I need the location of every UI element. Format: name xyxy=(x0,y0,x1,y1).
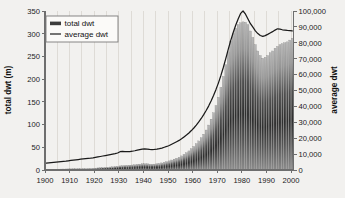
y-axis-left-tick: 200 xyxy=(27,75,40,84)
y-axis-right-title: average dwt xyxy=(330,66,339,114)
y-axis-left-title: total dwt (m) xyxy=(4,65,13,114)
chart-legend: total dwt average dwt xyxy=(46,16,118,42)
x-axis-tick: 1920 xyxy=(86,176,103,185)
x-axis-tick: 1950 xyxy=(160,176,177,185)
y-axis-right-tick: 70,000 xyxy=(299,55,322,64)
y-axis-left-tick: 300 xyxy=(27,30,40,39)
x-axis-tick: 1970 xyxy=(209,176,226,185)
y-axis-right-tick: 80,000 xyxy=(299,39,322,48)
legend-label-total-dwt: total dwt xyxy=(65,19,96,28)
y-axis-left-tick: 350 xyxy=(27,7,40,16)
y-axis-left-tick: 250 xyxy=(27,52,40,61)
y-axis-right-tick: 90,000 xyxy=(299,23,322,32)
x-axis-tick: 2000 xyxy=(283,176,300,185)
x-axis-tick: 1980 xyxy=(233,176,250,185)
y-axis-left-tick: 0 xyxy=(36,166,40,175)
x-axis-tick: 1910 xyxy=(61,176,78,185)
y-axis-right-tick: 60,000 xyxy=(299,70,322,79)
y-axis-left-tick: 50 xyxy=(32,143,40,152)
legend-swatch-total-dwt xyxy=(50,22,61,26)
y-axis-right-tick: 10,000 xyxy=(299,150,322,159)
y-axis-right-tick: 50,000 xyxy=(299,86,322,95)
y-axis-left-tick: 150 xyxy=(27,98,40,107)
y-axis-right-tick: 30,000 xyxy=(299,118,322,127)
total-and-average-dwt-chart: 1900191019201930194019501960197019801990… xyxy=(0,0,345,198)
y-axis-right-tick: 100,000 xyxy=(299,7,326,16)
chart-figure: 1900191019201930194019501960197019801990… xyxy=(0,0,345,198)
legend-label-average-dwt: average dwt xyxy=(65,30,109,39)
y-axis-right-tick: 0 xyxy=(299,166,303,175)
y-axis-right-tick: 40,000 xyxy=(299,102,322,111)
y-axis-right-tick: 20,000 xyxy=(299,134,322,143)
x-axis-tick: 1960 xyxy=(184,176,201,185)
x-axis-tick: 1930 xyxy=(110,176,127,185)
x-axis-tick-labels: 1900191019201930194019501960197019801990… xyxy=(37,176,300,185)
x-axis-tick: 1940 xyxy=(135,176,152,185)
x-axis-tick: 1990 xyxy=(258,176,275,185)
y-axis-left-tick: 100 xyxy=(27,120,40,129)
x-axis-tick: 1900 xyxy=(37,176,54,185)
